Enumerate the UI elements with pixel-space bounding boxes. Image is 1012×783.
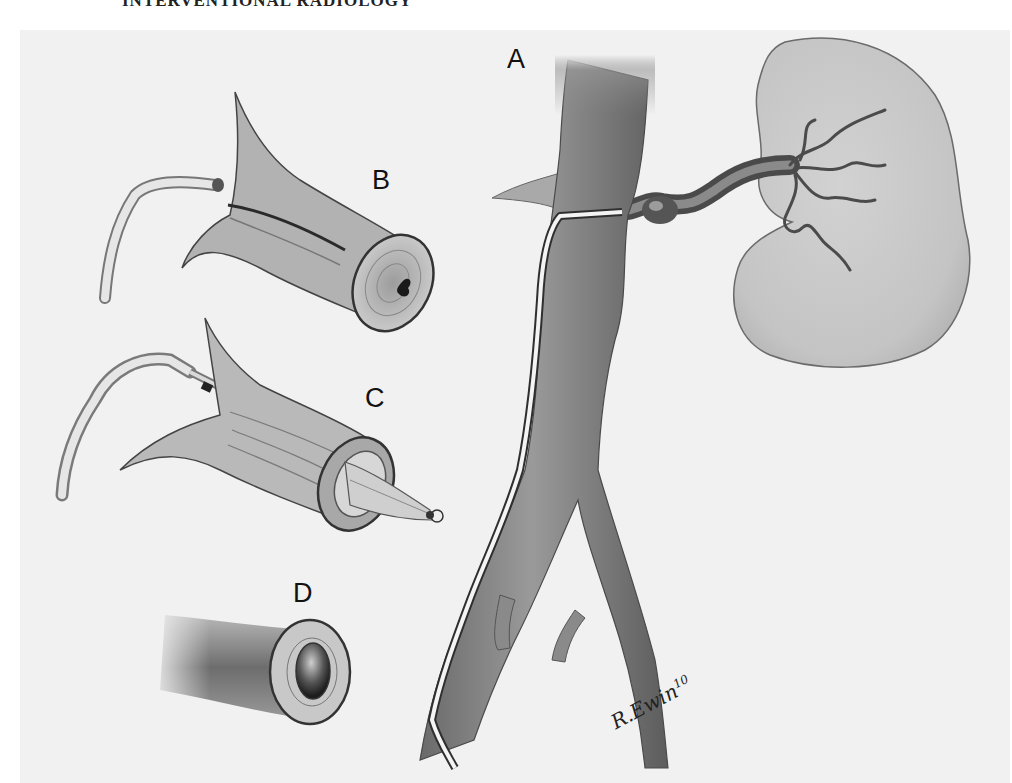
label-a: A xyxy=(507,44,525,75)
vessel-b-stenosis xyxy=(105,92,449,344)
aorta xyxy=(420,55,668,768)
vessel-c-balloon xyxy=(62,318,443,542)
label-b: B xyxy=(372,165,390,196)
label-d: D xyxy=(293,578,313,609)
medical-illustration xyxy=(0,0,1012,783)
vessel-d-patent xyxy=(150,600,350,725)
label-c: C xyxy=(365,383,385,414)
kidney xyxy=(628,38,970,367)
